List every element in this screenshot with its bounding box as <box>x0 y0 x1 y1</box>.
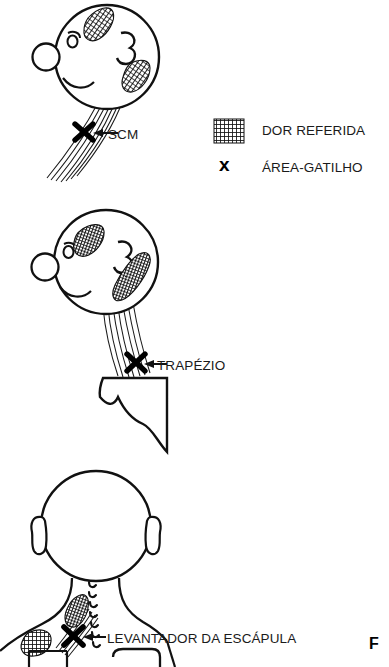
legend-label-dor-referida: DOR REFERIDA <box>262 124 365 138</box>
figure-trapezio <box>32 210 168 452</box>
ear-icon <box>31 517 46 554</box>
legend <box>214 119 244 143</box>
figure-label-levantador-da-escapula: LEVANTADOR DA ESCÁPULA <box>107 632 296 646</box>
legend-hatch-swatch <box>214 119 244 143</box>
trigger-point-diagram-canvas <box>0 0 389 667</box>
legend-x-marker-icon: x <box>219 155 230 174</box>
plate-letter: F <box>369 636 379 652</box>
figure-label-scm: SCM <box>108 128 138 142</box>
ear-icon <box>33 44 60 71</box>
figure-scm <box>33 5 160 182</box>
head-outline <box>41 471 151 581</box>
anatomy-plate: SCM TRAPÉZIO LEVANTADOR DA ESCÁPULA x DO… <box>0 0 389 667</box>
ear-icon <box>146 517 161 554</box>
torso-outline <box>113 649 160 667</box>
figure-label-trapezio: TRAPÉZIO <box>157 359 225 373</box>
ear-icon <box>32 254 59 281</box>
shoulder-outline <box>100 378 167 452</box>
legend-label-area-gatilho: ÁREA-GATILHO <box>262 161 363 175</box>
